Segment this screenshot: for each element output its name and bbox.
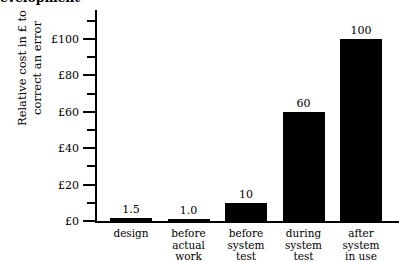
y-axis-minor-tick <box>87 165 95 167</box>
bar-value-label: 1.5 <box>98 204 164 215</box>
plot-area: 1.51.01060100 <box>95 10 399 223</box>
bar-value-label: 1.0 <box>156 205 222 216</box>
y-axis-tick-label: £60 <box>33 107 79 118</box>
bar <box>168 219 210 221</box>
x-axis-category-label: aftersystemin use <box>327 228 395 262</box>
y-axis-tick-label: £0 <box>33 216 79 227</box>
y-axis-minor-tick <box>87 129 95 131</box>
bar-value-label: 10 <box>213 189 279 200</box>
x-axis-spine <box>95 221 399 223</box>
y-axis-minor-tick <box>87 56 95 58</box>
y-axis-label-line-1: Relative cost in £ to <box>15 10 30 126</box>
bar-chart-figure: evelopment Relative cost in £ to correct… <box>0 0 399 262</box>
y-axis-major-tick <box>83 147 95 149</box>
bar-value-label: 100 <box>328 25 394 36</box>
bar <box>283 112 325 221</box>
bar <box>340 39 382 221</box>
y-axis-tick-label: £100 <box>33 34 79 45</box>
y-axis-major-tick <box>83 74 95 76</box>
y-axis-tick-label: £80 <box>33 70 79 81</box>
y-axis-major-tick <box>83 184 95 186</box>
y-axis-major-tick <box>83 220 95 222</box>
bar-value-label: 60 <box>271 98 337 109</box>
y-axis-minor-tick <box>87 202 95 204</box>
bar <box>225 203 267 221</box>
bar <box>110 218 152 221</box>
y-axis-spine <box>95 10 97 223</box>
x-axis-category-label-line: after <box>327 228 395 240</box>
y-axis-tick-label: £40 <box>33 143 79 154</box>
y-axis-major-tick <box>83 38 95 40</box>
y-axis-major-tick <box>83 111 95 113</box>
x-axis-category-label-line: in use <box>327 251 395 262</box>
y-axis-minor-tick <box>87 93 95 95</box>
y-axis-minor-tick <box>87 20 95 22</box>
y-axis-tick-label: £20 <box>33 180 79 191</box>
